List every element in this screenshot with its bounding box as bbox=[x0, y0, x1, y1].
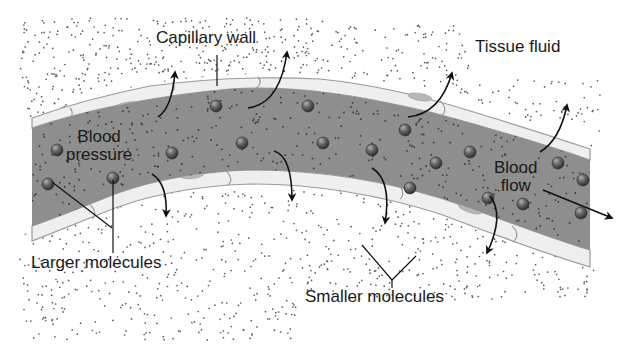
larger-molecules-label: Larger molecules bbox=[31, 254, 161, 272]
large-molecule bbox=[366, 144, 378, 156]
blood-flow-label: Blood flow bbox=[494, 159, 537, 195]
smaller-molecules-bracket bbox=[362, 245, 416, 280]
large-molecule bbox=[464, 146, 476, 158]
blood-pressure-label-line1: Blood bbox=[66, 128, 132, 146]
large-molecule bbox=[404, 182, 416, 194]
blood-pressure-label: Blood pressure bbox=[66, 128, 132, 164]
large-molecule bbox=[166, 147, 178, 159]
large-molecule bbox=[577, 174, 589, 186]
blood-pressure-label-line2: pressure bbox=[66, 146, 132, 164]
large-molecule bbox=[552, 157, 564, 169]
tissue-fluid-label: Tissue fluid bbox=[475, 38, 560, 56]
large-molecule bbox=[575, 207, 587, 219]
large-molecule bbox=[399, 124, 411, 136]
large-molecule bbox=[42, 178, 54, 190]
large-molecule bbox=[317, 137, 329, 149]
capillary-wall-label: Capillary wall bbox=[156, 29, 256, 47]
large-molecule bbox=[236, 137, 248, 149]
smaller-molecules-label: Smaller molecules bbox=[305, 288, 444, 306]
large-molecule bbox=[210, 100, 222, 112]
large-molecule bbox=[51, 144, 63, 156]
large-molecule bbox=[302, 100, 314, 112]
blood-flow-label-line2: flow bbox=[494, 177, 537, 195]
capillary-exchange-diagram: Capillary wall Tissue fluid Blood pressu… bbox=[0, 0, 636, 349]
large-molecule bbox=[517, 198, 529, 210]
blood-flow-label-line1: Blood bbox=[494, 159, 537, 177]
large-molecule bbox=[430, 157, 442, 169]
